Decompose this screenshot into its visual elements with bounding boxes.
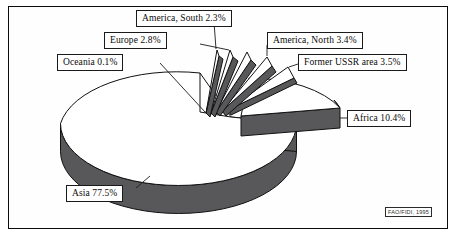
source-citation: FAO/FIDI, 1995 bbox=[385, 207, 432, 217]
slice-label-europe: Europe 2.8% bbox=[104, 32, 167, 49]
slice-label-america-south: America, South 2.3% bbox=[136, 10, 232, 27]
pie-chart-figure: America, South 2.3% Europe 2.8% America,… bbox=[0, 0, 456, 237]
slice-label-america-north: America, North 3.4% bbox=[267, 32, 363, 49]
slice-label-africa: Africa 10.4% bbox=[347, 110, 411, 127]
slice-label-former-ussr: Former USSR area 3.5% bbox=[298, 54, 407, 71]
slice-label-oceania: Oceania 0.1% bbox=[57, 54, 123, 71]
slice-label-asia: Asia 77.5% bbox=[66, 185, 123, 202]
